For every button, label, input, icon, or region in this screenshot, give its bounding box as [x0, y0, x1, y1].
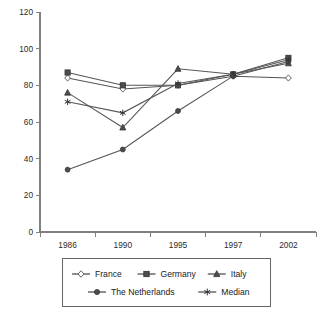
x-tick-label: 1986: [58, 240, 77, 250]
series-line: [68, 62, 289, 170]
data-point-open-diamond: [65, 75, 71, 81]
x-tick-label: 1990: [114, 240, 133, 250]
chart-canvas: 020406080100120 19861990199519972002 Fra…: [0, 0, 327, 327]
y-tick-label: 100: [19, 44, 33, 54]
legend-label: Germany: [161, 269, 197, 279]
x-axis: 19861990199519972002: [40, 232, 316, 250]
series-layer: [65, 55, 292, 172]
legend-marker-filled-circle: [94, 289, 99, 294]
data-point-filled-circle: [120, 147, 125, 152]
data-point-filled-triangle: [65, 89, 71, 95]
data-point-filled-circle: [65, 167, 70, 172]
legend-label: Italy: [231, 269, 247, 279]
legend-label: The Netherlands: [111, 287, 175, 297]
series-italy: [65, 60, 292, 130]
data-point-filled-circle: [176, 109, 181, 114]
x-tick-label: 1995: [169, 240, 188, 250]
y-tick-label: 120: [19, 7, 33, 17]
series-the-netherlands: [65, 59, 291, 172]
y-tick-label: 20: [24, 190, 34, 200]
data-point-open-diamond: [286, 75, 292, 81]
data-point-filled-square: [120, 83, 125, 88]
y-tick-label: 60: [24, 117, 34, 127]
x-tick-label: 2002: [279, 240, 298, 250]
line-chart: 020406080100120 19861990199519972002 Fra…: [0, 0, 327, 327]
y-axis: 020406080100120: [19, 7, 40, 237]
y-tick-label: 40: [24, 154, 34, 164]
y-tick-label: 0: [28, 227, 33, 237]
legend-border: [62, 258, 270, 306]
x-tick-label: 1997: [224, 240, 243, 250]
chart-legend: FranceGermanyItalyThe NetherlandsMedian: [62, 258, 270, 306]
series-line: [68, 63, 289, 127]
data-point-filled-square: [65, 70, 70, 75]
data-point-filled-triangle: [175, 66, 181, 72]
y-tick-label: 80: [24, 80, 34, 90]
legend-label: Median: [221, 287, 249, 297]
legend-marker-filled-square: [144, 271, 149, 276]
legend-label: France: [95, 269, 122, 279]
